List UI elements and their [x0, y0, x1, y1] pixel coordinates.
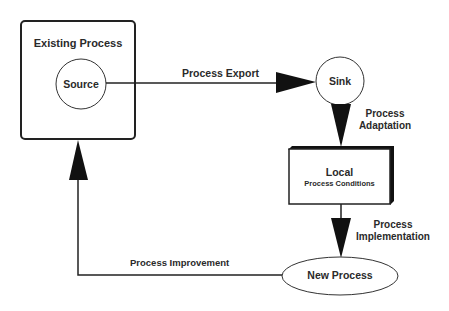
adaptation-label-line2: Adaptation	[350, 120, 420, 132]
improvement-arrowhead-icon	[69, 140, 88, 180]
implementation-label-line1: Process	[350, 219, 436, 231]
local-sublabel: Process Conditions	[289, 180, 390, 189]
export-arrowhead-icon	[276, 72, 316, 93]
export-label: Process Export	[182, 67, 259, 79]
existing-process-label: Existing Process	[21, 37, 135, 50]
new-process-label: New Process	[282, 269, 398, 281]
adaptation-label-line1: Process	[350, 108, 420, 120]
local-label: Local	[289, 166, 390, 178]
adaptation-arrowhead-icon	[331, 104, 351, 147]
implementation-label: Process Implementation	[350, 219, 436, 242]
sink-label: Sink	[316, 75, 364, 87]
improvement-label: Process Improvement	[130, 258, 229, 269]
implementation-arrowhead-icon	[331, 218, 351, 258]
source-label: Source	[56, 78, 106, 90]
adaptation-label: Process Adaptation	[350, 108, 420, 131]
implementation-label-line2: Implementation	[350, 231, 436, 243]
